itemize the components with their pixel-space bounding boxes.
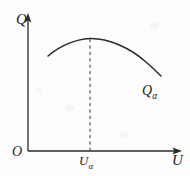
peak-x-subscript: α — [88, 161, 93, 171]
q-alpha-curve — [48, 38, 161, 76]
y-axis-label: Q — [16, 12, 27, 27]
curve-series-label: Qα — [142, 84, 157, 101]
curve-subscript: α — [152, 91, 157, 101]
peak-x-tick-label: Uα — [79, 154, 93, 170]
origin-label: O — [12, 145, 22, 159]
x-axis-label: U — [172, 153, 183, 168]
chart-plot-area — [0, 0, 190, 176]
figure-container: Q U O Uα Qα — [0, 0, 190, 176]
peak-x-symbol: U — [79, 153, 88, 168]
curve-symbol: Q — [142, 83, 152, 98]
